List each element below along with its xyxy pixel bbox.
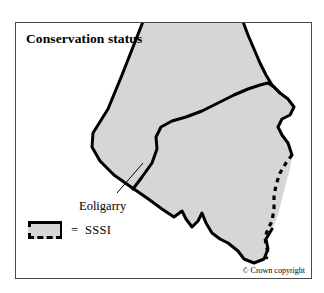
legend-sssi-swatch: [28, 221, 62, 239]
copyright-notice: © Crown copyright: [242, 266, 305, 275]
map-frame: Conservation status Eoligarry = SSSI © C…: [15, 22, 312, 279]
place-label-eoligarry: Eoligarry: [79, 199, 126, 214]
map-legend: = SSSI: [28, 221, 111, 239]
map-graphic: [16, 23, 311, 278]
legend-sssi-label: SSSI: [85, 223, 111, 238]
legend-swatch-top-edge: [28, 221, 62, 224]
legend-swatch-left-dashed-edge: [28, 221, 31, 239]
legend-equals-sign: =: [71, 223, 78, 238]
conservation-status-figure: Conservation status Eoligarry = SSSI © C…: [0, 0, 324, 293]
legend-swatch-bottom-dashed-edge: [28, 236, 62, 239]
map-title: Conservation status: [26, 31, 142, 47]
